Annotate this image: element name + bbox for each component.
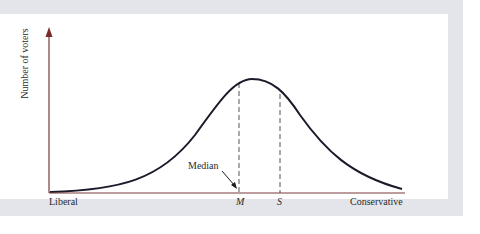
y-axis-label: Number of voters (19, 4, 30, 124)
median-annotation: Median (188, 160, 219, 171)
x-axis-right-label: Conservative (350, 196, 403, 207)
marker-m: M (236, 196, 244, 207)
y-axis-arrow-icon (46, 27, 53, 37)
x-axis-left-label: Liberal (49, 196, 78, 207)
marker-s: S (277, 196, 282, 207)
